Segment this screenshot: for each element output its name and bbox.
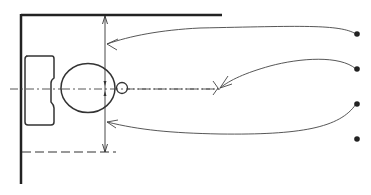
callout-dot-4 bbox=[354, 136, 360, 142]
leader-line-2 bbox=[220, 59, 356, 88]
leader-lines bbox=[107, 26, 356, 134]
diagram-canvas bbox=[0, 0, 371, 195]
callout-dot-2 bbox=[354, 66, 360, 72]
callout-dot-3 bbox=[354, 101, 360, 107]
callout-dot-1 bbox=[354, 31, 360, 37]
callout-dots bbox=[354, 31, 360, 142]
leader-line-1 bbox=[107, 26, 356, 44]
cistern-tank bbox=[25, 56, 54, 125]
toilet-bowl bbox=[61, 64, 115, 113]
outlet-flange-circle bbox=[117, 83, 128, 94]
leader-line-3 bbox=[107, 104, 356, 134]
